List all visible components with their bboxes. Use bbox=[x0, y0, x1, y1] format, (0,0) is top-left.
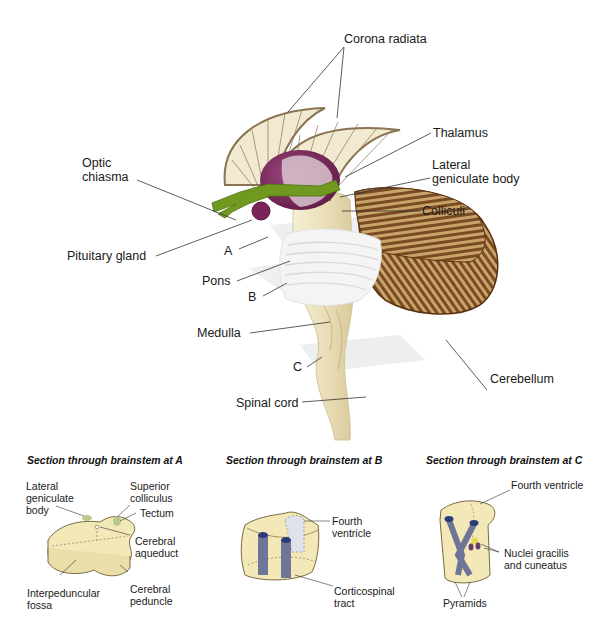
label-section-c: C bbox=[293, 360, 302, 374]
section-a-label-lateral-geniculate-body: Lateral geniculate body bbox=[26, 480, 74, 516]
label-section-a: A bbox=[224, 244, 232, 258]
section-b-label-corticospinal-tract: Corticospinal tract bbox=[334, 585, 395, 609]
thalamus-shape bbox=[260, 150, 340, 210]
section-c-illustration bbox=[440, 500, 495, 583]
label-lateral-geniculate-body: Lateral geniculate body bbox=[432, 158, 520, 186]
brainstem-shape bbox=[293, 191, 354, 440]
label-spinal-cord: Spinal cord bbox=[236, 396, 299, 410]
brainstem-diagram bbox=[0, 0, 605, 641]
section-a-label-cerebral-peduncle: Cerebral peduncle bbox=[130, 583, 173, 607]
section-b-illustration bbox=[241, 512, 319, 580]
section-a-label-superior-colliculus: Superior colliculus bbox=[130, 480, 173, 504]
section-b-title: Section through brainstem at B bbox=[226, 454, 382, 466]
section-a-label-interpeduncular-fossa: Interpeduncular fossa bbox=[27, 587, 100, 611]
label-pituitary-gland: Pituitary gland bbox=[67, 249, 146, 263]
label-corona-radiata: Corona radiata bbox=[344, 32, 427, 46]
label-pons: Pons bbox=[202, 274, 231, 288]
section-a-label-tectum: Tectum bbox=[140, 507, 174, 519]
label-cerebellum: Cerebellum bbox=[490, 372, 554, 386]
section-c-title: Section through brainstem at C bbox=[426, 454, 582, 466]
section-c-label-pyramids: Pyramids bbox=[443, 597, 487, 609]
section-c-label-nuclei-gracilis-cuneatus: Nuclei gracilis and cuneatus bbox=[504, 547, 569, 571]
pituitary-gland-shape bbox=[252, 202, 270, 220]
label-optic-chiasma: Optic chiasma bbox=[82, 156, 129, 184]
label-thalamus: Thalamus bbox=[433, 126, 488, 140]
section-b-label-fourth-ventricle: Fourth ventricle bbox=[332, 515, 371, 539]
label-medulla: Medulla bbox=[197, 326, 241, 340]
section-c-label-fourth-ventricle: Fourth ventricle bbox=[511, 479, 583, 491]
section-a-title: Section through brainstem at A bbox=[27, 454, 183, 466]
label-colliculi: Colliculi bbox=[422, 204, 465, 218]
label-section-b: B bbox=[248, 290, 256, 304]
section-a-label-cerebral-aqueduct: Cerebral aqueduct bbox=[135, 535, 178, 559]
pons-shape bbox=[280, 229, 382, 306]
